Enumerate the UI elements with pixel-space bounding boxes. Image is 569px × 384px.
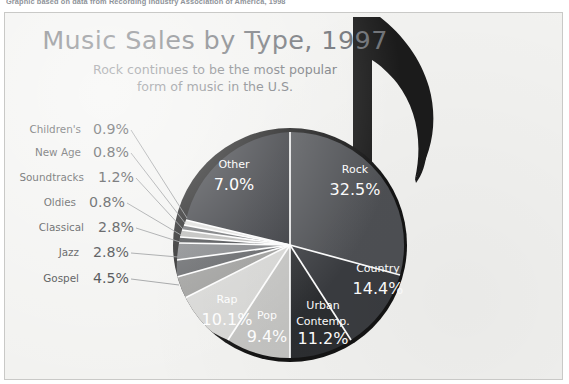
- callout-label-classical-pct: 2.8%: [98, 219, 134, 235]
- pie-chart: Rock 32.5% Country 14.4% Urban Contemp. …: [5, 13, 563, 380]
- callout-label-oldies-name: Oldies: [44, 196, 76, 208]
- slice-label-rap-name: Rap: [216, 293, 237, 306]
- leader-new-age: [131, 153, 185, 223]
- callout-label-classical-name: Classical: [39, 221, 84, 233]
- slice-label-rock-pct: 32.5%: [330, 180, 381, 199]
- slice-label-rap-pct: 10.1%: [202, 310, 253, 329]
- callout-label-gospel-pct: 4.5%: [93, 270, 129, 286]
- callout-label-new-age-pct: 0.8%: [93, 144, 129, 160]
- callout-label-childrens-name: Children's: [29, 123, 81, 135]
- leader-childrens: [131, 130, 187, 218]
- slice-label-rock-name: Rock: [342, 163, 369, 176]
- pie-callout-labels: Children's 0.9% New Age 0.8% Soundtracks…: [19, 121, 134, 286]
- callout-label-soundtracks-pct: 1.2%: [98, 169, 134, 185]
- slice-label-urban-contemp-word1: Urban: [306, 299, 339, 312]
- callout-label-jazz-pct: 2.8%: [93, 244, 129, 260]
- leader-soundtracks: [136, 178, 183, 229]
- slice-label-urban-contemp-word2: Contemp.: [296, 315, 350, 328]
- slice-label-other-pct: 7.0%: [214, 175, 255, 194]
- callout-label-gospel-name: Gospel: [43, 272, 79, 284]
- source-credit-line: Graphic based on data from Recording Ind…: [6, 0, 426, 7]
- leader-jazz: [131, 253, 178, 257]
- slice-label-pop-pct: 9.4%: [247, 327, 288, 346]
- chart-panel: Music Sales by Type, 1997 Rock continues…: [4, 12, 563, 380]
- callout-label-oldies-pct: 0.8%: [89, 194, 125, 210]
- callout-label-jazz-name: Jazz: [58, 246, 79, 258]
- slice-label-country-name: Country: [356, 262, 400, 275]
- infographic-page: Graphic based on data from Recording Ind…: [0, 0, 569, 384]
- callout-label-childrens-pct: 0.9%: [93, 121, 129, 137]
- callout-label-soundtracks-name: Soundtracks: [19, 171, 84, 183]
- callout-label-new-age-name: New Age: [35, 146, 81, 158]
- slice-label-other-name: Other: [218, 158, 250, 171]
- leader-gospel: [131, 279, 179, 285]
- slice-label-country-pct: 14.4%: [353, 279, 404, 298]
- slice-label-pop-name: Pop: [257, 309, 277, 322]
- slice-label-urban-contemp-pct: 11.2%: [298, 329, 349, 348]
